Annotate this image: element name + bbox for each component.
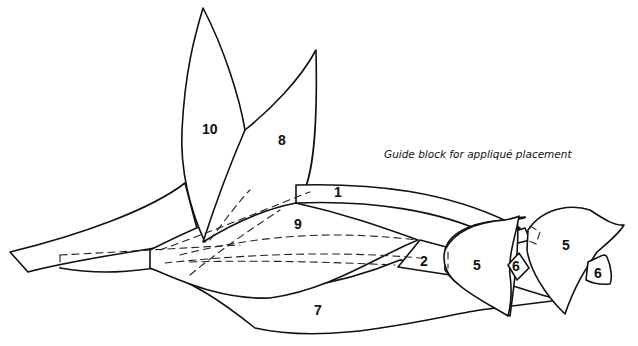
piece-label-10: 10	[202, 122, 218, 136]
piece-label-8: 8	[278, 133, 286, 147]
piece-label-6-right: 6	[594, 266, 602, 280]
piece-label-5-right: 5	[562, 238, 570, 252]
diagram-caption: Guide block for appliqué placement	[384, 148, 572, 160]
applique-diagram: 10 8 1 9 2 5 6 5 6 7 Guide block for app…	[0, 0, 638, 346]
piece-label-7: 7	[314, 303, 322, 317]
piece-label-9: 9	[294, 217, 302, 231]
piece-label-6-left: 6	[512, 259, 520, 273]
diagram-drawing	[0, 0, 638, 346]
piece-label-1: 1	[334, 185, 342, 199]
piece-label-5-left: 5	[473, 258, 481, 272]
piece-label-2: 2	[420, 254, 428, 268]
